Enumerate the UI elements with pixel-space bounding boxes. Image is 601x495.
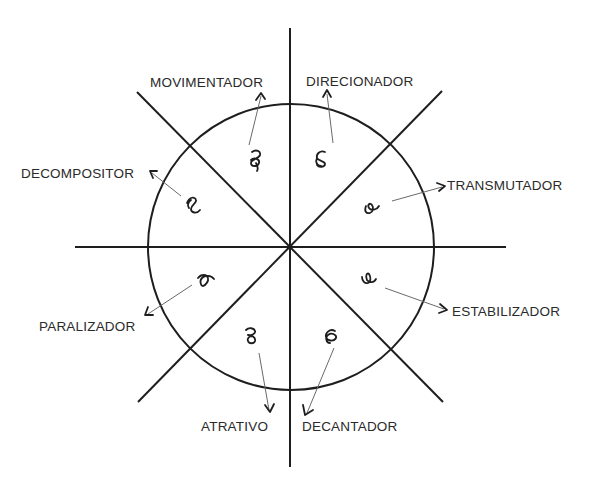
curl-glyph-icon: [198, 275, 214, 286]
curl-glyph-icon: [246, 328, 255, 343]
curl-glyph-icon: [251, 151, 260, 171]
curl-glyph-icon: [362, 273, 376, 283]
pointer-line: [259, 353, 269, 410]
label-estabilizador: ESTABILIZADOR: [452, 304, 560, 319]
label-atrativo: ATRATIVO: [201, 419, 268, 434]
eight-sector-diagram: MOVIMENTADOR DIRECIONADOR DECOMPOSITOR T…: [0, 0, 601, 495]
pointer-line: [327, 94, 333, 143]
sector-transmutador: TRANSMUTADOR: [365, 178, 562, 213]
label-direcionador: DIRECIONADOR: [306, 74, 413, 89]
center-point: [288, 245, 293, 250]
label-decompositor: DECOMPOSITOR: [21, 166, 134, 181]
sector-decantador: DECANTADOR: [302, 330, 398, 434]
sector-paralizador: PARALIZADOR: [39, 275, 214, 334]
pointer-line: [392, 187, 442, 201]
label-movimentador: MOVIMENTADOR: [150, 75, 263, 90]
pointer-line: [249, 96, 261, 145]
label-paralizador: PARALIZADOR: [39, 319, 136, 334]
label-decantador: DECANTADOR: [302, 419, 398, 434]
curl-glyph-icon: [316, 151, 325, 166]
curl-glyph-icon: [365, 204, 379, 213]
label-transmutador: TRANSMUTADOR: [447, 178, 562, 193]
sector-estabilizador: ESTABILIZADOR: [362, 273, 560, 319]
pointer-line: [385, 288, 444, 309]
arrowhead-icon: [265, 404, 274, 412]
pointer-line: [307, 348, 334, 413]
curl-glyph-icon: [326, 330, 336, 343]
sector-atrativo: ATRATIVO: [201, 328, 274, 434]
curl-glyph-icon: [187, 198, 200, 213]
sector-decompositor: DECOMPOSITOR: [21, 166, 200, 213]
